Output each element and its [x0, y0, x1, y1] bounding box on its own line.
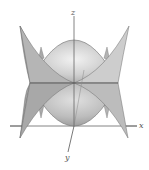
- y-axis: [68, 126, 74, 152]
- x-axis-label: x: [139, 122, 144, 130]
- surface-diagram: z x y: [0, 0, 149, 170]
- z-axis-label: z: [71, 9, 75, 17]
- surface-plot: [0, 0, 149, 170]
- y-axis-label: y: [65, 154, 70, 162]
